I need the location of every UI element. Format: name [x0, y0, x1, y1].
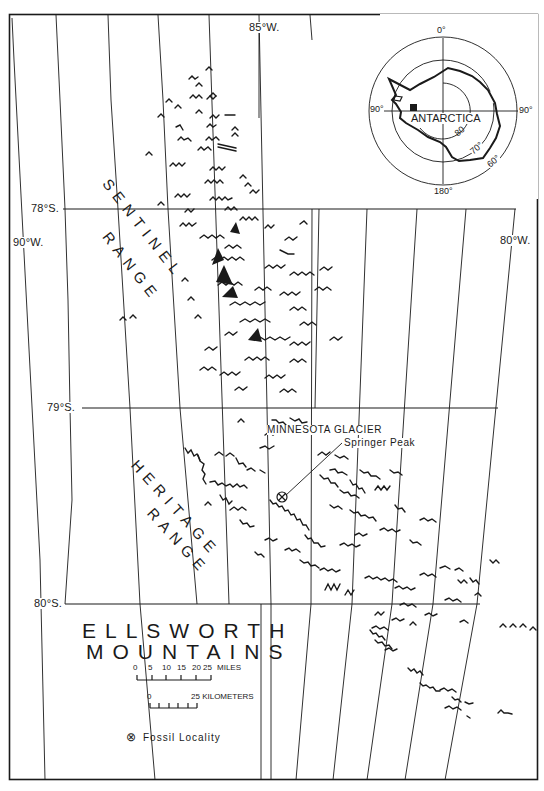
label-78s: 78°S.	[30, 203, 60, 214]
scale-km-labels: 025 KILOMETERS	[147, 693, 254, 701]
fossil-locality-icon: ⊗	[126, 730, 137, 744]
label-80w: 80°W.	[499, 235, 531, 246]
label-85w: 85°W.	[248, 22, 280, 33]
scale-miles-unit: MILES	[217, 664, 241, 672]
scale-km-tick-0: 0	[147, 693, 191, 701]
legend-label: Fossil Locality	[143, 732, 221, 743]
inset-label-90-west: 90°	[370, 105, 384, 114]
inset-label-90-east: 90°	[519, 106, 533, 115]
inset-label-180: 180°	[434, 187, 453, 196]
inset-label-0: 0°	[437, 26, 446, 35]
scale-miles-labels: 0 5 10 15 20 25 MILES	[133, 664, 241, 672]
inset-label-antarctica: ANTARCTICA	[410, 113, 481, 124]
study-area-marker	[410, 104, 417, 111]
label-springer-peak: Springer Peak	[344, 438, 415, 448]
scale-miles-tick-15: 15	[177, 664, 192, 672]
scale-miles-tick-10: 10	[162, 664, 177, 672]
scale-bar-miles	[137, 675, 211, 680]
scale-miles-tick-5: 5	[148, 664, 162, 672]
scale-bar-km	[150, 703, 197, 708]
scale-km-unit: KILOMETERS	[202, 692, 254, 701]
label-minnesota-glacier: MINNESOTA GLACIER	[267, 425, 382, 435]
fossil-locality-marker	[277, 492, 287, 502]
label-79s: 79°S.	[46, 402, 76, 413]
scale-miles-tick-20: 20	[192, 664, 203, 672]
scale-miles-tick-0: 0	[133, 664, 148, 672]
heritage-range-hachures	[185, 418, 479, 640]
label-90w: 90°W.	[12, 237, 44, 248]
southern-outlier-hachures	[372, 560, 536, 718]
legend-fossil-locality: ⊗Fossil Locality	[126, 731, 221, 743]
map-title-line2: MOUNTAINS	[86, 641, 291, 662]
label-80s: 80°S.	[33, 598, 63, 609]
scale-km-tick-25: 25	[191, 692, 200, 701]
map-title-line1: ELLSWORTH	[82, 620, 293, 641]
inset-antarctica-map	[369, 14, 538, 199]
scale-miles-tick-25: 25	[203, 664, 217, 672]
